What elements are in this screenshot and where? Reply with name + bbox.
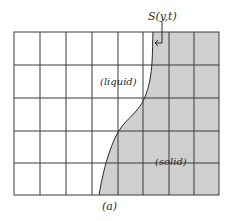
caption: (a): [102, 200, 117, 213]
phase-change-diagram: S(y,t) (liquid) (solid) (a): [0, 0, 234, 221]
solid-label: (solid): [155, 156, 187, 167]
liquid-label: (liquid): [100, 76, 137, 87]
interface-label: S(y,t): [148, 10, 177, 23]
solid-region: [99, 32, 219, 195]
